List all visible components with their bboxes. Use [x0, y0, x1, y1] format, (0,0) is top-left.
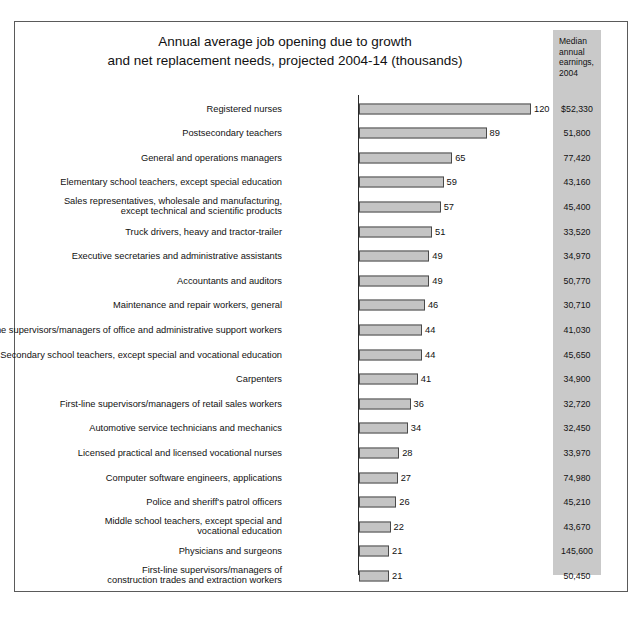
category-label: First-line supervisors/managers of const…	[0, 565, 287, 586]
median-earnings-value: 34,970	[553, 251, 601, 261]
bar-row: Postsecondary teachers8951,800	[15, 121, 629, 146]
median-earnings-value: 45,400	[553, 202, 601, 212]
median-earnings-value: 30,710	[553, 300, 601, 310]
median-earnings-value: 32,720	[553, 399, 601, 409]
plot-area: Registered nurses120$52,330Postsecondary…	[15, 22, 629, 593]
bar	[359, 398, 411, 409]
bar-value-label: 51	[432, 227, 445, 237]
category-label: Postsecondary teachers	[0, 128, 287, 139]
bar-value-label: 49	[429, 276, 442, 286]
category-label: First-line supervisors/managers of offic…	[0, 325, 287, 336]
chart-figure: Annual average job opening due to growth…	[14, 21, 628, 592]
bar-row: Maintenance and repair workers, general4…	[15, 293, 629, 318]
median-earnings-value: $52,330	[553, 104, 601, 114]
bar	[359, 546, 389, 557]
bar-value-label: 120	[531, 104, 550, 114]
median-earnings-value: 77,420	[553, 153, 601, 163]
category-label: Truck drivers, heavy and tractor-trailer	[0, 226, 287, 237]
median-earnings-value: 43,670	[553, 522, 601, 532]
bar-row: Sales representatives, wholesale and man…	[15, 194, 629, 219]
bar-value-label: 59	[444, 177, 457, 187]
bar	[359, 374, 418, 385]
bar-row: General and operations managers6577,420	[15, 145, 629, 170]
bar-value-label: 22	[391, 522, 404, 532]
category-label: Sales representatives, wholesale and man…	[0, 196, 287, 217]
bar-row: Computer software engineers, application…	[15, 465, 629, 490]
bar-row: Physicians and surgeons21145,600	[15, 539, 629, 564]
bar-value-label: 21	[389, 546, 402, 556]
bar-row: Elementary school teachers, except speci…	[15, 170, 629, 195]
median-earnings-value: 145,600	[553, 546, 601, 556]
bar	[359, 152, 452, 163]
bar-row: Police and sheriff's patrol officers2645…	[15, 490, 629, 515]
bar-row: Carpenters4134,900	[15, 367, 629, 392]
bar	[359, 251, 429, 262]
bar	[359, 201, 441, 212]
bar-row: Automotive service technicians and mecha…	[15, 416, 629, 441]
bar	[359, 472, 398, 483]
category-label: Licensed practical and licensed vocation…	[0, 448, 287, 459]
bar	[359, 447, 399, 458]
category-label: Police and sheriff's patrol officers	[0, 497, 287, 508]
median-earnings-value: 50,450	[553, 571, 601, 581]
bar-row: Accountants and auditors4950,770	[15, 268, 629, 293]
median-earnings-value: 41,030	[553, 325, 601, 335]
bar-row: First-line supervisors/managers of retai…	[15, 391, 629, 416]
category-label: Registered nurses	[0, 103, 287, 114]
bar	[359, 349, 422, 360]
median-earnings-value: 50,770	[553, 276, 601, 286]
category-label: Elementary school teachers, except speci…	[0, 177, 287, 188]
bar-value-label: 26	[396, 497, 409, 507]
bar-value-label: 44	[422, 325, 435, 335]
median-earnings-value: 74,980	[553, 473, 601, 483]
median-earnings-value: 51,800	[553, 128, 601, 138]
bar-row: First-line supervisors/managers of offic…	[15, 317, 629, 342]
category-label: Carpenters	[0, 374, 287, 385]
median-earnings-value: 33,520	[553, 227, 601, 237]
bar-value-label: 89	[487, 128, 500, 138]
bar	[359, 324, 422, 335]
bar-value-label: 36	[411, 399, 424, 409]
median-earnings-value: 34,900	[553, 374, 601, 384]
median-earnings-value: 45,650	[553, 350, 601, 360]
bar-value-label: 49	[429, 251, 442, 261]
category-label: Middle school teachers, except special a…	[0, 516, 287, 537]
category-label: General and operations managers	[0, 152, 287, 163]
bar	[359, 300, 425, 311]
bar-row: Executive secretaries and administrative…	[15, 244, 629, 269]
bar	[359, 423, 408, 434]
bar-value-label: 41	[418, 374, 431, 384]
category-label: Computer software engineers, application…	[0, 472, 287, 483]
median-earnings-value: 32,450	[553, 423, 601, 433]
bar-row: Registered nurses120$52,330	[15, 96, 629, 121]
bar	[359, 275, 429, 286]
bar-row: Licensed practical and licensed vocation…	[15, 440, 629, 465]
category-label: Executive secretaries and administrative…	[0, 251, 287, 262]
category-label: Maintenance and repair workers, general	[0, 300, 287, 311]
median-earnings-value: 43,160	[553, 177, 601, 187]
bar-row: First-line supervisors/managers of const…	[15, 563, 629, 588]
category-label: Automotive service technicians and mecha…	[0, 423, 287, 434]
bar	[359, 103, 531, 114]
bar-value-label: 34	[408, 423, 421, 433]
bar-value-label: 28	[399, 448, 412, 458]
bar-value-label: 21	[389, 571, 402, 581]
bar-row: Middle school teachers, except special a…	[15, 514, 629, 539]
bar-row: Truck drivers, heavy and tractor-trailer…	[15, 219, 629, 244]
category-label: Secondary school teachers, except specia…	[0, 349, 287, 360]
category-label: Physicians and surgeons	[0, 546, 287, 557]
category-label: First-line supervisors/managers of retai…	[0, 398, 287, 409]
bar-value-label: 57	[441, 202, 454, 212]
bar	[359, 521, 391, 532]
bar-value-label: 65	[452, 153, 465, 163]
median-earnings-value: 33,970	[553, 448, 601, 458]
bar-value-label: 44	[422, 350, 435, 360]
bar	[359, 497, 396, 508]
bar-value-label: 46	[425, 300, 438, 310]
category-label: Accountants and auditors	[0, 275, 287, 286]
bar	[359, 570, 389, 581]
bar-row: Secondary school teachers, except specia…	[15, 342, 629, 367]
median-earnings-value: 45,210	[553, 497, 601, 507]
bar	[359, 128, 487, 139]
bar	[359, 177, 444, 188]
